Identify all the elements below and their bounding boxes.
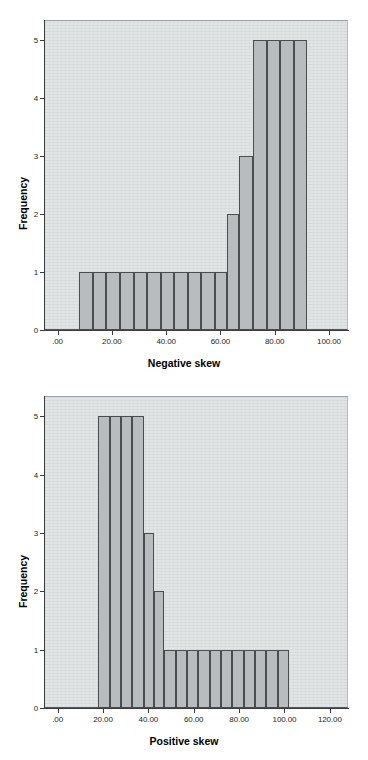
histogram-bar — [210, 650, 221, 708]
x-axis-tick — [194, 709, 195, 713]
x-axis-tick-label: 40.00 — [139, 715, 159, 724]
histogram-bar — [132, 416, 143, 708]
x-axis-tick — [112, 331, 113, 335]
histogram-bar — [174, 272, 188, 330]
y-axis-tick-label: 4 — [25, 470, 38, 479]
histogram-bar — [144, 533, 154, 708]
y-axis-tick — [40, 591, 44, 592]
x-axis-tick-label: 100.00 — [273, 715, 297, 724]
x-axis-tick-label: .00 — [52, 337, 63, 346]
x-axis-tick — [148, 709, 149, 713]
y-axis-tick — [40, 98, 44, 99]
x-axis-tick — [103, 709, 104, 713]
histogram-bar — [187, 650, 198, 708]
y-axis-tick — [40, 475, 44, 476]
histogram-bar — [253, 40, 267, 330]
x-axis-tick-label: 20.00 — [102, 337, 122, 346]
histogram-bar — [98, 416, 109, 708]
x-axis-tick — [220, 331, 221, 335]
x-axis-tick — [166, 331, 167, 335]
histogram-bar — [278, 650, 289, 708]
histogram-bar — [266, 650, 277, 708]
x-axis-tick — [284, 709, 285, 713]
histogram-bar — [110, 416, 121, 708]
y-axis-tick-label: 5 — [25, 36, 38, 45]
x-axis-tick — [58, 331, 59, 335]
histogram-bar — [161, 272, 175, 330]
x-axis-tick — [275, 331, 276, 335]
histogram-bar — [255, 650, 266, 708]
y-axis-line — [44, 20, 45, 331]
y-axis-line — [44, 396, 45, 709]
histogram-bar — [198, 650, 209, 708]
histogram-bar — [176, 650, 187, 708]
x-axis-line — [44, 708, 349, 709]
histogram-bar — [201, 272, 215, 330]
y-axis-tick — [40, 416, 44, 417]
y-axis-tick — [40, 272, 44, 273]
x-axis-title-negative-skew: Negative skew — [0, 357, 368, 369]
histogram-bar — [121, 416, 132, 708]
y-axis-tick — [40, 533, 44, 534]
y-axis-tick — [40, 214, 44, 215]
histogram-bar — [294, 40, 308, 330]
y-axis-tick — [40, 40, 44, 41]
y-axis-tick-label: 3 — [25, 529, 38, 538]
histogram-bar — [164, 650, 175, 708]
y-axis-tick-label: 3 — [25, 152, 38, 161]
histogram-bar — [239, 156, 253, 330]
x-axis-tick-label: 100.00 — [317, 337, 341, 346]
y-axis-tick-label: 1 — [25, 268, 38, 277]
y-axis-tick-label: 5 — [25, 412, 38, 421]
histogram-bar — [280, 40, 294, 330]
histogram-bar — [188, 272, 202, 330]
histogram-bar — [134, 272, 148, 330]
x-axis-tick-label: 120.00 — [318, 715, 342, 724]
y-axis-tick-label: 0 — [25, 704, 38, 713]
histogram-bar — [120, 272, 134, 330]
x-axis-tick-label: 60.00 — [211, 337, 231, 346]
x-axis-line — [44, 330, 349, 331]
y-axis-tick — [40, 330, 44, 331]
y-axis-tick-label: 0 — [25, 326, 38, 335]
y-axis-tick — [40, 650, 44, 651]
positive-skew-chart: 012345.0020.0040.0060.0080.00100.00120.0… — [0, 380, 368, 760]
x-axis-tick-label: 80.00 — [265, 337, 285, 346]
y-axis-tick — [40, 708, 44, 709]
y-axis-title-positive-skew: Frequency — [17, 555, 29, 608]
histogram-bar — [154, 591, 164, 708]
x-axis-tick-label: .00 — [52, 715, 63, 724]
x-axis-tick-label: 20.00 — [93, 715, 113, 724]
y-axis-tick — [40, 156, 44, 157]
histogram-bar — [221, 650, 232, 708]
x-axis-tick — [58, 709, 59, 713]
x-axis-tick-label: 80.00 — [229, 715, 249, 724]
x-axis-tick — [330, 709, 331, 713]
x-axis-tick — [329, 331, 330, 335]
histogram-bar — [244, 650, 255, 708]
x-axis-tick-label: 40.00 — [156, 337, 176, 346]
histogram-bar — [215, 272, 227, 330]
histogram-bar — [267, 40, 281, 330]
negative-skew-chart: 012345.0020.0040.0060.0080.00100.00 Nega… — [0, 0, 368, 380]
y-axis-tick-label: 1 — [25, 645, 38, 654]
x-axis-tick — [239, 709, 240, 713]
histogram-bar — [106, 272, 120, 330]
x-axis-tick-label: 60.00 — [184, 715, 204, 724]
y-axis-tick-label: 4 — [25, 94, 38, 103]
histogram-bar — [227, 214, 239, 330]
histogram-bar — [93, 272, 107, 330]
histogram-bar — [79, 272, 93, 330]
histogram-bar — [232, 650, 243, 708]
x-axis-title-positive-skew: Positive skew — [0, 735, 368, 747]
histogram-bar — [147, 272, 161, 330]
y-axis-title-negative-skew: Frequency — [17, 177, 29, 230]
